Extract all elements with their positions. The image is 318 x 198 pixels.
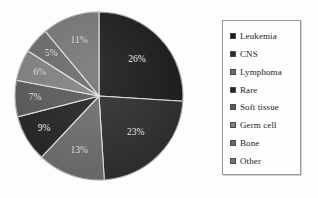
pie-slice-value-label: 13% bbox=[70, 145, 88, 155]
legend-swatch-icon bbox=[230, 33, 236, 39]
legend-item-label: Germ cell bbox=[240, 117, 277, 133]
legend-swatch-icon bbox=[230, 87, 236, 93]
legend-swatch-icon bbox=[230, 158, 236, 164]
legend: LeukemiaCNSLymphomaRareSoft tissueGerm c… bbox=[222, 20, 301, 175]
pie-slice-value-label: 23% bbox=[127, 127, 145, 137]
pie-slice-value-label: 7% bbox=[29, 92, 42, 102]
legend-item[interactable]: Leukemia bbox=[230, 28, 296, 44]
legend-item-label: Leukemia bbox=[240, 28, 277, 44]
pie-slice-value-label: 9% bbox=[38, 123, 51, 133]
pie-chart-figure: 26%23%13%9%7%6%5%11% LeukemiaCNSLymphoma… bbox=[0, 0, 318, 198]
pie-slice-value-label: 26% bbox=[128, 54, 146, 64]
legend-item[interactable]: Germ cell bbox=[230, 117, 296, 133]
legend-swatch-icon bbox=[230, 51, 236, 57]
legend-item[interactable]: Lymphoma bbox=[230, 64, 296, 80]
legend-item[interactable]: Soft tissue bbox=[230, 99, 296, 115]
legend-swatch-icon bbox=[230, 69, 236, 75]
legend-item[interactable]: Rare bbox=[230, 82, 296, 98]
legend-items-list: LeukemiaCNSLymphomaRareSoft tissueGerm c… bbox=[230, 28, 296, 169]
legend-item-label: Other bbox=[240, 153, 261, 169]
pie-slice-value-label: 11% bbox=[71, 35, 88, 45]
legend-swatch-icon bbox=[230, 122, 236, 128]
pie-chart-svg: 26%23%13%9%7%6%5%11% bbox=[13, 7, 185, 185]
legend-item-label: Lymphoma bbox=[240, 64, 282, 80]
pie-slice-value-label: 6% bbox=[33, 67, 46, 77]
legend-item-label: Soft tissue bbox=[240, 99, 279, 115]
legend-item-label: CNS bbox=[240, 46, 258, 62]
legend-item-label: Rare bbox=[240, 82, 257, 98]
legend-item[interactable]: Bone bbox=[230, 135, 296, 151]
legend-item[interactable]: Other bbox=[230, 153, 296, 169]
legend-swatch-icon bbox=[230, 104, 236, 110]
pie-chart-area: 26%23%13%9%7%6%5%11% bbox=[13, 7, 185, 185]
legend-item[interactable]: CNS bbox=[230, 46, 296, 62]
legend-item-label: Bone bbox=[240, 135, 259, 151]
pie-slice-value-label: 5% bbox=[45, 48, 58, 58]
legend-swatch-icon bbox=[230, 140, 236, 146]
pie-slice bbox=[99, 96, 183, 180]
